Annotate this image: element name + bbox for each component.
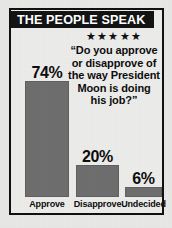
bar-category-label: Approve — [19, 199, 75, 210]
poll-bar-chart: 74% Approve 20% Disapprove 6% Undecided — [11, 30, 162, 213]
bar-category-label: Undecided — [119, 199, 168, 210]
people-speak-infographic: THE PEOPLE SPEAK ★★★★★ “Do you approve o… — [0, 0, 172, 228]
bar-group-approve: 74% Approve — [25, 81, 69, 197]
bar-group-undecided: 6% Undecided — [125, 187, 162, 197]
bar-value-label: 74% — [25, 65, 69, 80]
bar-category-label: Disapprove — [70, 199, 125, 210]
bar-rect — [76, 165, 119, 197]
bar-rect — [125, 187, 162, 197]
bar-group-disapprove: 20% Disapprove — [76, 165, 119, 197]
bar-value-label: 6% — [125, 171, 162, 186]
bar-value-label: 20% — [76, 149, 119, 164]
bar-rect — [25, 81, 69, 197]
header-banner: THE PEOPLE SPEAK — [11, 11, 154, 28]
page-title: THE PEOPLE SPEAK — [17, 13, 145, 26]
